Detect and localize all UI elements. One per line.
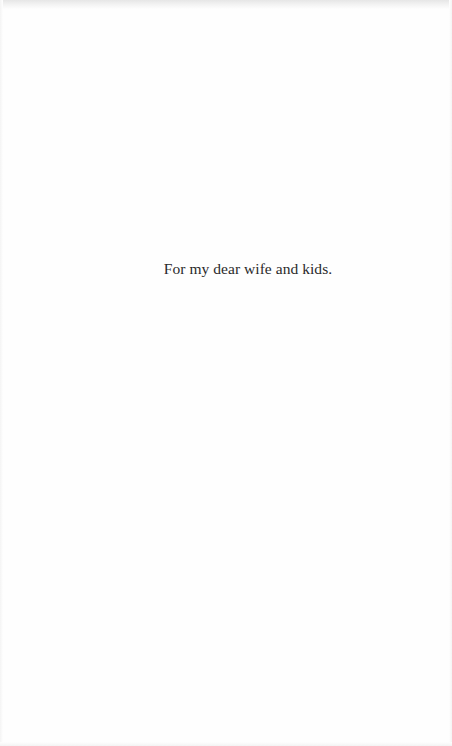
scan-edge-shadow-bottom xyxy=(0,742,452,746)
book-page: For my dear wife and kids. xyxy=(0,0,452,746)
scan-edge-shadow-left xyxy=(0,0,3,746)
dedication-text: For my dear wife and kids. xyxy=(0,259,452,279)
scan-edge-shadow-top xyxy=(0,0,452,9)
